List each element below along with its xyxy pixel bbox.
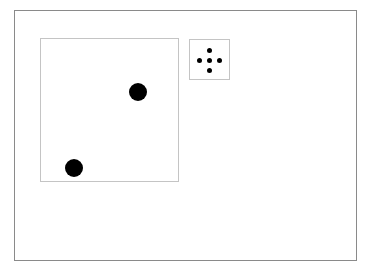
pip-dot-icon xyxy=(197,58,202,63)
pip-dot-icon xyxy=(207,68,212,73)
pip-dot-icon xyxy=(65,159,83,177)
large-die[interactable] xyxy=(40,38,179,182)
pip-dot-icon xyxy=(207,58,212,63)
pip-dot-icon xyxy=(217,58,222,63)
pip-dot-icon xyxy=(129,83,147,101)
pip-dot-icon xyxy=(207,48,212,53)
